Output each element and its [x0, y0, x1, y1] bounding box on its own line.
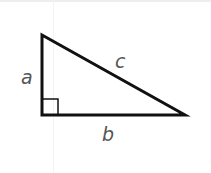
right-angle-marker — [42, 99, 58, 115]
label-c: c — [115, 52, 125, 71]
triangle-outline — [42, 35, 185, 115]
label-b: b — [102, 125, 114, 144]
label-a: a — [21, 68, 33, 87]
